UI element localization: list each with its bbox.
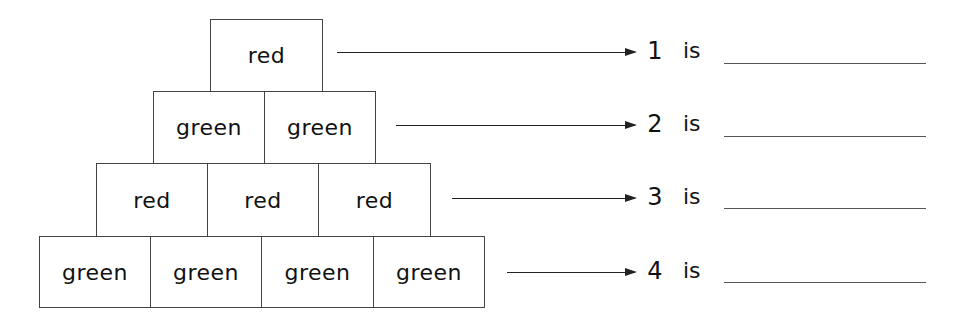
- arrow-icon: [452, 198, 635, 199]
- question-number: 1: [645, 37, 665, 65]
- answer-blank[interactable]: [724, 282, 926, 283]
- pyramid-cell: green: [373, 236, 485, 308]
- arrow-icon: [507, 272, 635, 273]
- pyramid-cell: green: [150, 236, 262, 308]
- question-text: is: [683, 111, 701, 136]
- pyramid-cell: green: [153, 91, 265, 164]
- question-number: 3: [645, 183, 665, 211]
- pyramid-cell: red: [207, 163, 319, 237]
- question-text: is: [683, 258, 701, 283]
- question-number: 4: [645, 257, 665, 285]
- question-text: is: [683, 38, 701, 63]
- answer-blank[interactable]: [724, 208, 926, 209]
- question-text: is: [683, 184, 701, 209]
- pyramid-cell: green: [261, 236, 374, 308]
- arrow-icon: [337, 52, 635, 53]
- arrow-icon: [396, 125, 635, 126]
- pyramid-cell: red: [318, 163, 431, 237]
- answer-blank[interactable]: [724, 63, 926, 64]
- answer-blank[interactable]: [724, 136, 926, 137]
- pyramid-cell: green: [264, 91, 376, 164]
- pyramid-cell: green: [39, 236, 151, 308]
- pyramid-cell: red: [210, 19, 323, 92]
- pyramid-cell: red: [96, 163, 208, 237]
- question-number: 2: [645, 110, 665, 138]
